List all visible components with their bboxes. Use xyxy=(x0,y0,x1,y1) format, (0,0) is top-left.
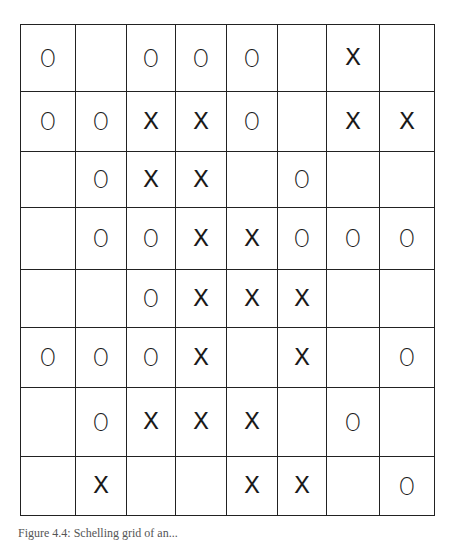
agent-o-mark: O xyxy=(294,224,311,253)
figure-caption: Figure 4.4: Schelling grid of an... xyxy=(18,526,178,541)
agent-x-mark: X xyxy=(193,284,209,314)
agent-x-mark: X xyxy=(294,471,310,501)
grid-cell: O xyxy=(227,92,278,152)
agent-o-mark: O xyxy=(93,107,110,136)
grid-cell xyxy=(327,457,380,516)
grid-cell: X xyxy=(227,270,278,328)
grid-cell: O xyxy=(76,328,127,388)
grid-cell: O xyxy=(278,208,327,270)
grid-cell xyxy=(380,388,435,457)
grid-cell: X xyxy=(176,208,227,270)
agent-x-mark: X xyxy=(244,224,260,254)
grid-cell: X xyxy=(176,388,227,457)
agent-o-mark: O xyxy=(244,107,261,136)
agent-x-mark: X xyxy=(193,107,209,137)
grid-cell: X xyxy=(127,92,176,152)
grid-cell: X xyxy=(76,457,127,516)
grid-cell: O xyxy=(176,24,227,92)
grid-cell: O xyxy=(127,328,176,388)
grid-cell: X xyxy=(227,208,278,270)
grid-cell xyxy=(278,24,327,92)
agent-o-mark: O xyxy=(399,224,416,253)
grid-cell: X xyxy=(227,457,278,516)
grid-cell: X xyxy=(127,388,176,457)
grid-cell: X xyxy=(176,92,227,152)
agent-x-mark: X xyxy=(193,343,209,373)
grid-cell xyxy=(227,328,278,388)
grid-cell: O xyxy=(20,328,76,388)
agent-x-mark: X xyxy=(193,165,209,195)
agent-o-mark: O xyxy=(93,165,110,194)
grid-cell xyxy=(327,152,380,208)
grid-cell: O xyxy=(278,152,327,208)
grid-cell: X xyxy=(176,270,227,328)
agent-x-mark: X xyxy=(345,107,361,137)
agent-o-mark: O xyxy=(143,224,160,253)
grid-cell: O xyxy=(127,208,176,270)
grid-cell xyxy=(380,270,435,328)
grid-cell: O xyxy=(380,208,435,270)
grid-cell xyxy=(380,152,435,208)
grid-cell: X xyxy=(327,24,380,92)
agent-o-mark: O xyxy=(40,343,57,372)
agent-o-mark: O xyxy=(244,44,261,73)
grid-cell: O xyxy=(327,208,380,270)
grid-cell: O xyxy=(20,24,76,92)
agent-o-mark: O xyxy=(345,224,362,253)
agent-o-mark: O xyxy=(143,343,160,372)
grid-cell xyxy=(278,92,327,152)
agent-x-mark: X xyxy=(143,165,159,195)
agent-o-mark: O xyxy=(40,44,57,73)
grid-cell xyxy=(20,152,76,208)
agent-x-mark: X xyxy=(193,407,209,437)
agent-o-mark: O xyxy=(294,165,311,194)
grid-cell: O xyxy=(327,388,380,457)
grid-cell xyxy=(20,457,76,516)
grid-cell xyxy=(127,457,176,516)
agent-o-mark: O xyxy=(40,107,57,136)
grid-cell: X xyxy=(278,270,327,328)
grid-cell: X xyxy=(278,328,327,388)
grid-cell: O xyxy=(127,24,176,92)
grid-cell: X xyxy=(227,388,278,457)
agent-o-mark: O xyxy=(93,224,110,253)
agent-x-mark: X xyxy=(294,284,310,314)
agent-x-mark: X xyxy=(345,43,361,73)
agent-o-mark: O xyxy=(93,408,110,437)
grid-cell: O xyxy=(380,457,435,516)
grid-cell: O xyxy=(380,328,435,388)
grid-cell: O xyxy=(76,152,127,208)
grid-cell: X xyxy=(380,92,435,152)
grid-cell: X xyxy=(176,152,227,208)
grid-cell: O xyxy=(127,270,176,328)
agent-x-mark: X xyxy=(244,407,260,437)
grid-cell xyxy=(327,270,380,328)
agent-o-mark: O xyxy=(93,343,110,372)
grid-cell xyxy=(278,388,327,457)
grid-cell xyxy=(380,24,435,92)
grid-cell: O xyxy=(76,92,127,152)
grid-cell: X xyxy=(176,328,227,388)
agent-o-mark: O xyxy=(399,343,416,372)
agent-x-mark: X xyxy=(244,471,260,501)
grid-cell: X xyxy=(327,92,380,152)
grid-cell xyxy=(20,270,76,328)
grid-cell xyxy=(327,328,380,388)
agent-x-mark: X xyxy=(244,284,260,314)
agent-x-mark: X xyxy=(93,471,109,501)
grid-cell: O xyxy=(76,208,127,270)
grid-cell xyxy=(176,457,227,516)
agent-o-mark: O xyxy=(193,44,210,73)
agent-o-mark: O xyxy=(143,284,160,313)
grid-cell xyxy=(227,152,278,208)
grid-cell xyxy=(20,208,76,270)
grid-cell xyxy=(76,24,127,92)
agent-o-mark: O xyxy=(143,44,160,73)
agent-x-mark: X xyxy=(143,107,159,137)
agent-x-mark: X xyxy=(193,224,209,254)
grid-cell xyxy=(20,388,76,457)
grid-cell xyxy=(76,270,127,328)
agent-o-mark: O xyxy=(345,408,362,437)
agent-x-mark: X xyxy=(399,107,415,137)
grid-cell: X xyxy=(278,457,327,516)
